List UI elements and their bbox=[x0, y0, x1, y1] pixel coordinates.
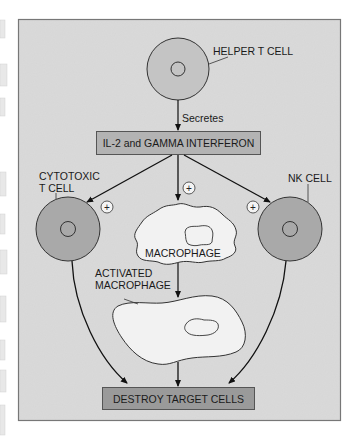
plus-icon-macrophage: + bbox=[183, 182, 195, 194]
page-edge-scraps bbox=[0, 20, 7, 435]
cytotoxic-t-cell-nucleus bbox=[61, 222, 76, 237]
svg-text:+: + bbox=[186, 183, 192, 194]
secretes-label: Secretes bbox=[182, 112, 223, 124]
activated-macrophage-label-line2: MACROPHAGE bbox=[95, 279, 171, 291]
macrophage-label: MACROPHAGE bbox=[145, 247, 221, 259]
svg-text:+: + bbox=[104, 202, 110, 213]
svg-text:+: + bbox=[250, 202, 256, 213]
nk-label: NK CELL bbox=[288, 172, 332, 184]
activated-macrophage-label-line1: ACTIVATED bbox=[95, 267, 153, 279]
cytokines-label: IL-2 and GAMMA INTERFERON bbox=[103, 137, 255, 149]
cytotoxic-label-line1: CYTOTOXIC bbox=[39, 170, 100, 182]
immune-response-diagram: HELPER T CELL Secretes IL-2 and GAMMA IN… bbox=[0, 0, 357, 444]
activated-macrophage-nucleus bbox=[185, 319, 219, 336]
plus-icon-nk: + bbox=[247, 201, 259, 213]
nk-cell-nucleus bbox=[283, 222, 298, 237]
plus-icon-cytotoxic: + bbox=[101, 201, 113, 213]
destroy-label: DESTROY TARGET CELLS bbox=[113, 393, 244, 405]
helper-t-cell-nucleus bbox=[171, 62, 185, 76]
helper-t-cell-label: HELPER T CELL bbox=[213, 45, 293, 57]
destroy-target-cells-box: DESTROY TARGET CELLS bbox=[103, 388, 255, 410]
cytotoxic-label-line2: T CELL bbox=[39, 182, 75, 194]
macrophage-nucleus bbox=[185, 226, 213, 246]
cytokines-box: IL-2 and GAMMA INTERFERON bbox=[97, 132, 261, 155]
